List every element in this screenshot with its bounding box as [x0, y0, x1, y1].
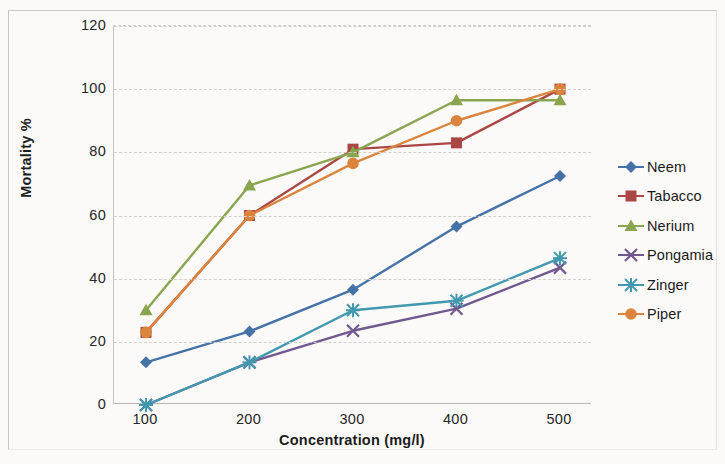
x-tick-label: 100	[132, 411, 157, 427]
series-pongamia	[140, 262, 566, 411]
x-tick-label: 500	[546, 411, 571, 427]
legend-label: Neem	[647, 159, 686, 175]
series-neem	[140, 170, 566, 368]
series-line	[146, 89, 560, 332]
legend-label: Nerium	[647, 218, 694, 234]
legend-item-nerium[interactable]: Nerium	[618, 211, 722, 241]
series-piper	[140, 83, 566, 338]
x-axis-label: Concentration (mg/l)	[113, 432, 591, 448]
y-tick-label: 120	[6, 17, 106, 33]
x-tick-label: 400	[443, 411, 468, 427]
legend-item-tabacco[interactable]: Tabacco	[618, 182, 722, 212]
legend-swatch	[618, 278, 644, 292]
legend-marker-square-icon	[623, 188, 639, 204]
gridline	[114, 279, 591, 280]
legend-item-piper[interactable]: Piper	[618, 300, 722, 330]
legend-swatch	[618, 248, 644, 262]
gridline	[114, 342, 591, 343]
y-axis-label: Mortality %	[18, 88, 34, 228]
gridline	[114, 89, 591, 90]
legend-label: Tabacco	[647, 188, 702, 204]
legend-marker-diamond-icon	[623, 159, 639, 175]
gridline	[114, 26, 591, 27]
legend-item-pongamia[interactable]: Pongamia	[618, 241, 722, 271]
legend-marker-cross-icon	[623, 247, 639, 263]
y-axis-ticks: 020406080100120	[0, 25, 106, 404]
legend-label: Zinger	[647, 277, 689, 293]
series-line	[146, 176, 560, 362]
legend-marker-triangle-icon	[623, 218, 639, 234]
legend-marker-asterisk-icon	[623, 277, 639, 293]
series-tabacco	[141, 84, 566, 338]
x-tick-label: 200	[236, 411, 261, 427]
y-tick-label: 20	[6, 333, 106, 349]
legend-swatch	[618, 160, 644, 174]
x-tick-label: 300	[339, 411, 364, 427]
legend-item-zinger[interactable]: Zinger	[618, 270, 722, 300]
gridline	[114, 216, 591, 217]
legend-swatch	[618, 219, 644, 233]
line-chart: 020406080100120 Mortality % 100200300400…	[0, 0, 725, 464]
series-line	[146, 89, 560, 332]
chart-legend: NeemTabaccoNeriumPongamiaZingerPiper	[618, 152, 722, 329]
legend-swatch	[618, 307, 644, 321]
legend-swatch	[618, 189, 644, 203]
plot-area	[113, 25, 591, 404]
legend-label: Pongamia	[647, 247, 713, 263]
legend-label: Piper	[647, 306, 681, 322]
chart-page: 020406080100120 Mortality % 100200300400…	[0, 0, 725, 464]
y-tick-label: 0	[6, 396, 106, 412]
y-tick-label: 40	[6, 270, 106, 286]
legend-item-neem[interactable]: Neem	[618, 152, 722, 182]
data-point	[554, 262, 566, 274]
gridline	[114, 152, 591, 153]
series-line	[146, 268, 560, 405]
legend-marker-circle-icon	[623, 306, 639, 322]
